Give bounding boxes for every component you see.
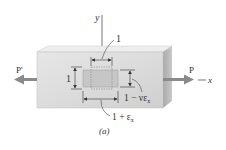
axial-strain-diagram: y P' P x 1 1 1 − νεx xyxy=(0,0,226,150)
label-lateral-strained: 1 − νεx xyxy=(124,93,150,104)
load-label-right: P xyxy=(189,65,194,75)
block-top-face xyxy=(37,46,172,52)
y-axis-label: y xyxy=(94,12,100,23)
figure-caption: (a) xyxy=(99,126,110,136)
label-axial-strained: 1 + εx xyxy=(112,112,134,123)
x-axis-label: x xyxy=(207,75,212,85)
label-width-unstrained: 1 xyxy=(116,33,121,44)
strained-element xyxy=(83,70,118,87)
load-arrow-left xyxy=(14,75,37,85)
block-side-face xyxy=(163,46,172,108)
label-height-unstrained: 1 xyxy=(66,73,71,84)
load-label-left: P' xyxy=(16,65,23,75)
